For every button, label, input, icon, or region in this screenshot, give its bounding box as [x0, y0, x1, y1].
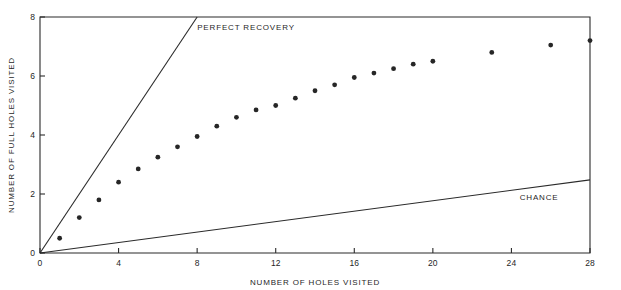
x-axis-ticks [40, 248, 590, 253]
y-tick-label: 8 [30, 12, 35, 22]
x-tick-label: 28 [585, 258, 595, 268]
data-point-series [57, 38, 592, 240]
data-point [77, 215, 82, 220]
data-point [372, 71, 377, 76]
data-point [155, 155, 160, 160]
data-point [293, 96, 298, 101]
chart-figure: 0481216202428 02468 PERFECT RECOVERYCHAN… [0, 0, 621, 290]
y-axis-tick-labels: 02468 [30, 12, 35, 258]
data-point [234, 115, 239, 120]
y-axis-title: NUMBER OF FULL HOLES VISITED [7, 57, 16, 213]
y-tick-label: 0 [30, 248, 35, 258]
annotation-label: CHANCE [520, 193, 559, 202]
y-axis-ticks [40, 17, 45, 253]
data-point [175, 144, 180, 149]
y-tick-label: 2 [30, 189, 35, 199]
x-tick-label: 24 [507, 258, 517, 268]
data-point [352, 75, 357, 80]
series-annotations: PERFECT RECOVERYCHANCE [197, 23, 558, 202]
data-point [489, 50, 494, 55]
x-tick-label: 4 [116, 258, 121, 268]
data-point [97, 198, 102, 203]
data-point [430, 59, 435, 64]
data-point [214, 124, 219, 129]
data-point [273, 103, 278, 108]
data-point [548, 43, 553, 48]
data-point [313, 88, 318, 93]
data-point [588, 38, 593, 43]
data-point [136, 167, 141, 172]
y-tick-label: 6 [30, 71, 35, 81]
x-axis-title: NUMBER OF HOLES VISITED [250, 278, 380, 287]
data-point [195, 134, 200, 139]
recovery-scatter-chart: 0481216202428 02468 PERFECT RECOVERYCHAN… [0, 0, 621, 290]
reference-line-chance [40, 180, 590, 253]
data-point [116, 180, 121, 185]
x-axis-tick-labels: 0481216202428 [38, 258, 595, 268]
x-tick-label: 20 [428, 258, 438, 268]
data-point [411, 62, 416, 67]
axis-frame [40, 17, 590, 253]
reference-lines [40, 17, 590, 253]
x-tick-label: 16 [349, 258, 359, 268]
x-tick-label: 12 [271, 258, 281, 268]
data-point [332, 82, 337, 87]
data-point [254, 108, 259, 113]
data-point [391, 66, 396, 71]
annotation-label: PERFECT RECOVERY [197, 23, 295, 32]
x-tick-label: 8 [195, 258, 200, 268]
data-point [57, 236, 62, 241]
plot-frame [40, 17, 590, 253]
reference-line-perfect-recovery [40, 17, 197, 253]
y-tick-label: 4 [30, 130, 35, 140]
x-tick-label: 0 [38, 258, 43, 268]
